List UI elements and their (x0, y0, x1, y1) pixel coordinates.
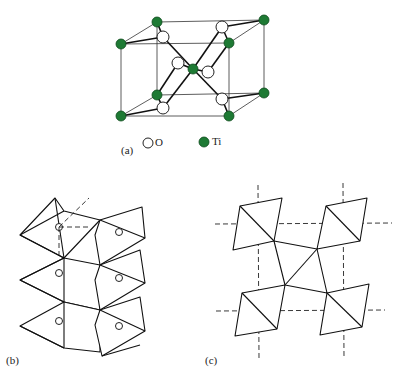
panel-c-label: (c) (205, 354, 217, 366)
panel-a-label: (a) (121, 144, 133, 156)
ti-legend-icon (199, 137, 209, 147)
panel-a-unit-cell (116, 15, 269, 121)
o-legend-label: O (155, 136, 163, 148)
rutile-structure-figure (0, 0, 399, 374)
ti-legend-label: Ti (212, 135, 221, 147)
panel-c-projection (215, 183, 392, 358)
panel-b-label: (b) (6, 354, 19, 366)
o-legend-icon (143, 138, 153, 148)
panel-b-octahedra-chains (20, 198, 145, 356)
